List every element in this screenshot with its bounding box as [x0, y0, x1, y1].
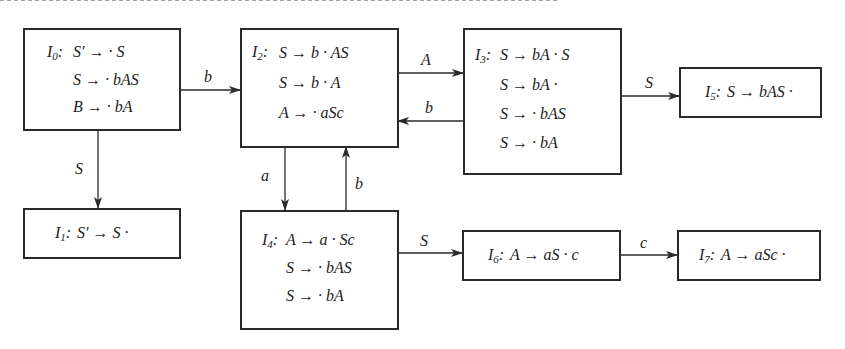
- item: S → · bAS: [286, 258, 352, 278]
- state-i1: I1: S′ → S ·: [23, 208, 181, 259]
- item: S → bA ·: [500, 75, 557, 95]
- edge-label-i4-i2: b: [355, 175, 363, 193]
- state-i5-name: I5:: [705, 82, 721, 106]
- state-i3-name: I3:: [475, 45, 491, 69]
- item: S → b · A: [279, 73, 340, 93]
- state-i3: I3: S → bA · S S → bA · S → · bAS S → · …: [463, 28, 622, 175]
- edge-label-i0-i2: b: [204, 68, 212, 86]
- item: S → · bA: [286, 286, 344, 306]
- state-i4: I4: A → a · Sc S → · bAS S → · bA: [240, 210, 399, 330]
- item: S′ → S ·: [77, 223, 129, 243]
- item: S → · bAS: [500, 104, 566, 124]
- edge-label-i2-i3: A: [421, 51, 431, 69]
- item: S′ → · S: [73, 42, 125, 62]
- state-i7: I7: A → aSc ·: [677, 230, 821, 281]
- item: B → · bA: [73, 97, 133, 117]
- edge-label-i2-i4: a: [261, 167, 269, 185]
- state-i0: I0: S′ → · S S → · bAS B → · bA: [23, 28, 181, 131]
- state-i2: I2: S → b · AS S → b · A A → · aSc: [240, 28, 399, 148]
- edge-label-i6-i7: c: [640, 234, 647, 252]
- state-i0-name: I0:: [47, 42, 63, 66]
- item: S → b · AS: [279, 43, 348, 63]
- item: A → aS · c: [510, 245, 579, 265]
- state-i6-name: I6:: [488, 245, 504, 269]
- state-i1-name: I1:: [55, 223, 71, 247]
- state-i7-name: I7:: [699, 245, 715, 269]
- item: A → aSc ·: [721, 245, 786, 265]
- state-i6: I6: A → aS · c: [462, 230, 621, 281]
- edge-label-i0-i1: S: [75, 160, 83, 178]
- item: S → · bAS: [73, 70, 139, 90]
- edge-label-i3-i2: b: [425, 99, 433, 117]
- edge-label-i3-i5: S: [645, 74, 653, 92]
- item: A → · aSc: [279, 103, 344, 123]
- state-i2-name: I2:: [252, 42, 268, 66]
- item: A → a · Sc: [286, 230, 355, 250]
- edge-label-i4-i6: S: [420, 232, 428, 250]
- item: S → bA · S: [500, 45, 569, 65]
- state-i4-name: I4:: [262, 230, 278, 254]
- state-i5: I5: S → bAS ·: [679, 67, 822, 118]
- item: S → bAS ·: [727, 82, 793, 102]
- item: S → · bA: [500, 133, 558, 153]
